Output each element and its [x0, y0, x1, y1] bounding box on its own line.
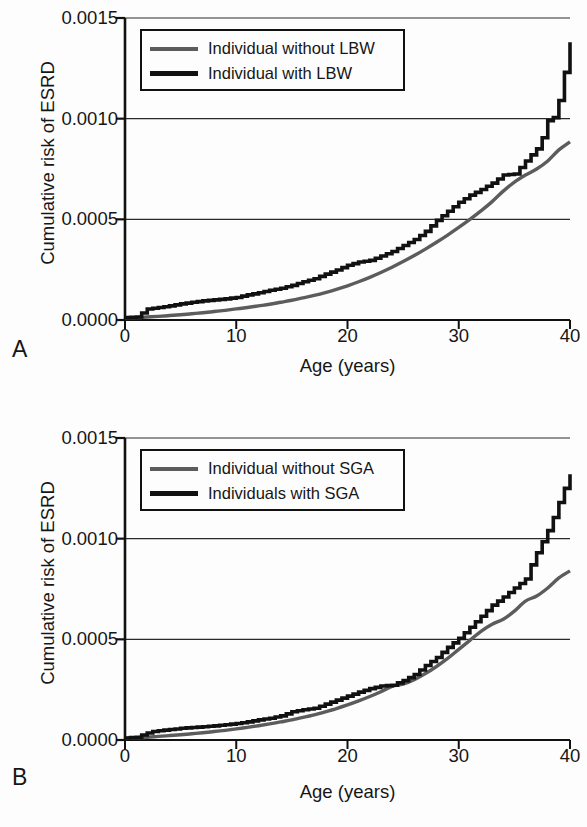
panel-a-legend-row-without: Individual without LBW	[150, 36, 393, 61]
series-line-without	[125, 142, 570, 318]
panel-b-y-tick-labels: 0.0000 0.0005 0.0010 0.0015	[8, 438, 118, 740]
panel-a-letter: A	[12, 336, 28, 363]
panel-b-ytick-0: 0.0000	[8, 729, 118, 751]
panel-a-y-tick-labels: 0.0000 0.0005 0.0010 0.0015	[8, 18, 118, 320]
panel-a-ytick-3: 0.0015	[8, 7, 118, 29]
panel-b-legend-label-without: Individual without SGA	[208, 460, 374, 477]
series-line-with	[125, 474, 570, 738]
panel-b-ytick-2: 0.0010	[8, 528, 118, 550]
panel-a-ytick-0: 0.0000	[8, 309, 118, 331]
panel-a-legend-label-with: Individual with LBW	[208, 65, 352, 82]
panel-a-legend-row-with: Individual with LBW	[150, 61, 393, 86]
panel-b-legend-label-with: Individuals with SGA	[208, 485, 359, 502]
panel-b-legend-row-with: Individuals with SGA	[150, 481, 393, 506]
panel-a-legend-label-without: Individual without LBW	[208, 40, 375, 57]
panel-b-legend-swatch-with-icon	[150, 491, 198, 496]
panel-b-ytick-3: 0.0015	[8, 427, 118, 449]
panel-b: B Cumulative risk of ESRD 0.0000 0.0005 …	[0, 420, 587, 827]
panel-a-legend-swatch-with-icon	[150, 71, 198, 76]
panel-b-legend-row-without: Individual without SGA	[150, 456, 393, 481]
panel-b-letter: B	[12, 764, 28, 791]
panel-b-ytick-1: 0.0005	[8, 628, 118, 650]
panel-a-legend: Individual without LBW Individual with L…	[140, 29, 405, 91]
panel-a-x-axis-label: Age (years)	[125, 355, 570, 377]
panel-a-ytick-2: 0.0010	[8, 108, 118, 130]
panel-a-legend-swatch-without-icon	[150, 47, 198, 51]
esrd-cumulative-risk-figure: A Cumulative risk of ESRD 0.0000 0.0005 …	[0, 0, 587, 827]
panel-a-ytick-1: 0.0005	[8, 208, 118, 230]
panel-b-legend: Individual without SGA Individuals with …	[140, 449, 405, 511]
panel-b-legend-swatch-without-icon	[150, 467, 198, 471]
panel-b-x-axis-label: Age (years)	[125, 781, 570, 803]
panel-a: A Cumulative risk of ESRD 0.0000 0.0005 …	[0, 0, 587, 410]
